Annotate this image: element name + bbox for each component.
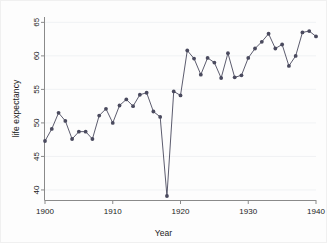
- svg-text:40: 40: [32, 185, 41, 194]
- svg-text:45: 45: [32, 151, 41, 160]
- x-axis-ticks: 19001910192019301940: [36, 200, 325, 216]
- data-point-markers: [43, 29, 318, 198]
- svg-text:50: 50: [32, 118, 41, 127]
- svg-text:55: 55: [32, 84, 41, 93]
- y-axis-ticks: 404550556065: [32, 17, 45, 194]
- life-expectancy-chart: life expectancy Year 404550556065 190019…: [0, 0, 327, 243]
- svg-text:1910: 1910: [104, 207, 122, 216]
- svg-text:1930: 1930: [239, 207, 257, 216]
- svg-text:1940: 1940: [307, 207, 325, 216]
- svg-text:60: 60: [32, 51, 41, 60]
- svg-text:1920: 1920: [172, 207, 190, 216]
- axis-lines: [45, 17, 317, 201]
- plot-area: 404550556065 19001910192019301940: [0, 0, 327, 243]
- svg-text:65: 65: [32, 17, 41, 26]
- svg-text:1900: 1900: [36, 207, 54, 216]
